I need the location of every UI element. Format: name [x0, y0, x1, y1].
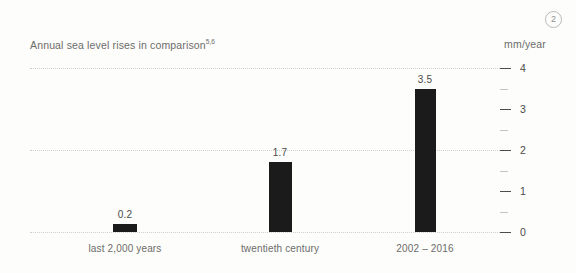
- bar-value-label: 1.7: [250, 147, 310, 158]
- bar: [269, 162, 292, 232]
- bar-value-label: 0.2: [95, 209, 155, 220]
- y-axis-tick-label: 2: [520, 144, 526, 156]
- y-axis-tick-minor: [500, 212, 508, 213]
- y-axis-tick-label: 0: [520, 226, 526, 238]
- y-axis-unit-label: mm/year: [504, 38, 546, 50]
- y-axis-tick-minor: [500, 130, 508, 131]
- y-axis-tick-major: [500, 232, 511, 233]
- plot-area: 0.21.73.5: [30, 68, 500, 232]
- gridline: [30, 68, 500, 69]
- y-axis-tick-major: [500, 68, 511, 69]
- figure-number-badge: 2: [545, 11, 562, 28]
- y-axis-tick-minor: [500, 89, 508, 90]
- y-axis-tick-major: [500, 109, 511, 110]
- y-axis-tick-major: [500, 191, 511, 192]
- gridline: [30, 232, 500, 233]
- y-axis-tick-minor: [500, 171, 508, 172]
- y-axis-tick-label: 3: [520, 103, 526, 115]
- bar: [415, 89, 436, 233]
- bar: [113, 224, 137, 232]
- y-axis-tick-major: [500, 150, 511, 151]
- x-axis-label: last 2,000 years: [89, 243, 162, 254]
- y-axis-tick-label: 1: [520, 185, 526, 197]
- x-axis-label: 2002 – 2016: [396, 243, 453, 254]
- chart-title-footnote-marker: 5,6: [206, 38, 215, 45]
- chart-figure: 2 Annual sea level rises in comparison5,…: [0, 0, 576, 273]
- y-axis: 01234: [500, 68, 576, 232]
- x-axis-label: twentieth century: [241, 243, 319, 254]
- chart-title-text: Annual sea level rises in comparison: [30, 39, 206, 51]
- chart-title: Annual sea level rises in comparison5,6: [30, 38, 215, 51]
- y-axis-tick-label: 4: [520, 62, 526, 74]
- bar-value-label: 3.5: [395, 74, 455, 85]
